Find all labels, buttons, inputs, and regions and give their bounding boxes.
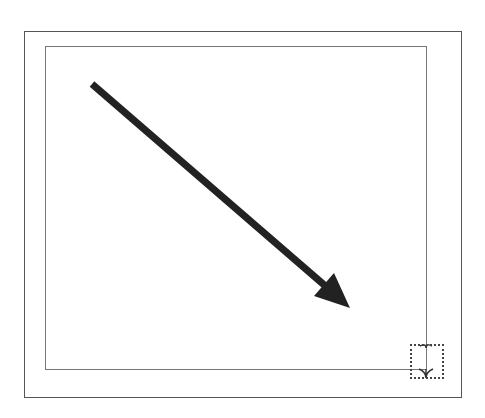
arrow-shaft[interactable] bbox=[92, 84, 330, 290]
resize-handle[interactable] bbox=[410, 344, 444, 379]
